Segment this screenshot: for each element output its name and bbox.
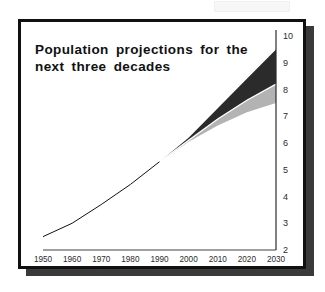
svg-text:8: 8 — [283, 85, 288, 95]
svg-text:1960: 1960 — [63, 255, 82, 264]
svg-text:2030: 2030 — [267, 255, 286, 264]
chart-card: 195019601970198019902000201020202030 234… — [18, 19, 306, 269]
svg-text:5: 5 — [283, 165, 288, 175]
svg-text:6: 6 — [283, 138, 288, 148]
historical-line — [43, 162, 160, 237]
svg-text:1990: 1990 — [150, 255, 169, 264]
plot-area: 195019601970198019902000201020202030 234… — [21, 22, 303, 266]
svg-text:2000: 2000 — [180, 255, 199, 264]
svg-text:3: 3 — [283, 218, 288, 228]
scan-artifact — [214, 1, 290, 12]
y-tick-labels: 2345678910 — [283, 31, 293, 255]
svg-text:2010: 2010 — [209, 255, 228, 264]
svg-text:7: 7 — [283, 111, 288, 121]
x-tick-labels: 195019601970198019902000201020202030 — [34, 255, 286, 264]
svg-text:9: 9 — [283, 58, 288, 68]
svg-text:4: 4 — [283, 192, 288, 202]
svg-text:1970: 1970 — [92, 255, 111, 264]
svg-text:2: 2 — [283, 245, 288, 255]
figure-root: 195019601970198019902000201020202030 234… — [0, 0, 325, 292]
svg-text:1950: 1950 — [34, 255, 53, 264]
svg-text:1980: 1980 — [121, 255, 140, 264]
svg-text:2020: 2020 — [238, 255, 257, 264]
chart-title: Population projections for the next thre… — [35, 42, 250, 76]
svg-text:10: 10 — [283, 31, 293, 41]
